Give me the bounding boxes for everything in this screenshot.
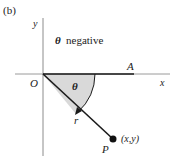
caption-negative: negative (66, 34, 103, 46)
caption-theta: θ (55, 34, 61, 46)
y-axis-label: y (32, 18, 38, 29)
point-A-label: A (126, 60, 134, 72)
point-P (110, 136, 117, 143)
panel-label: (b) (3, 4, 16, 17)
origin-label: O (30, 77, 38, 89)
polar-angle-diagram: (b) y θ negative A x O θ r P (x,y) (0, 0, 181, 160)
radius-label: r (74, 114, 79, 126)
point-P-label: P (101, 143, 109, 155)
angle-label: θ (72, 80, 78, 92)
angle-sector (43, 74, 95, 114)
point-P-coords: (x,y) (121, 133, 140, 145)
x-axis-label: x (159, 77, 165, 88)
